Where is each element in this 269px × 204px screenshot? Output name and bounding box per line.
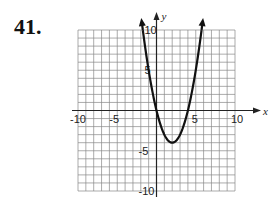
y-tick-label: -5 [139,145,149,157]
x-tick-label: 10 [231,113,243,125]
x-axis-arrow-icon [253,108,261,114]
coordinate-plane-graph: xy-10-5510105-5-10 [0,0,269,204]
y-tick-label: -10 [139,185,155,197]
y-axis-label: y [161,10,167,22]
y-tick-label: 10 [145,24,157,36]
x-tick-label: -5 [109,113,119,125]
curve-arrow-icon [139,18,146,26]
x-tick-label: 5 [192,113,198,125]
axes [72,12,261,197]
x-axis-label: x [262,105,268,117]
curve-arrow-icon [199,18,206,26]
y-axis-arrow-icon [154,12,160,20]
x-tick-label: -10 [70,113,86,125]
